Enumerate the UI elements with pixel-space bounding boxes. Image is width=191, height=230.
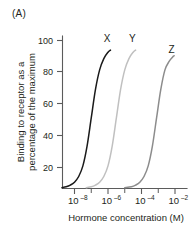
x-tick-exponent: –8 (81, 194, 89, 201)
x-tick-label-1e-4: 10 –4 (135, 194, 155, 207)
y-axis-title-line2: percentage of the maximum (26, 53, 37, 171)
x-tick-label-1e-6: 10 –6 (102, 194, 122, 207)
curve-label-y: Y (129, 33, 136, 44)
y-tick-label-80: 80 (43, 67, 53, 77)
x-tick-mantissa: 10 (68, 195, 79, 206)
x-tick-label-1e-2: 10 –2 (169, 194, 189, 207)
y-tick-label-60: 60 (43, 99, 53, 109)
curve-series-z (125, 56, 174, 188)
x-tick-exponent: –6 (114, 194, 122, 201)
x-tick-mantissa: 10 (102, 195, 113, 206)
y-axis-ticks (57, 41, 63, 168)
x-tick-mantissa: 10 (135, 195, 146, 206)
y-tick-label-20: 20 (43, 163, 53, 173)
y-axis-title-line1: Binding to receptor as a (15, 61, 26, 162)
x-tick-mantissa: 10 (169, 195, 180, 206)
figure-panel-a: (A) 100 80 60 40 20 (0, 0, 191, 230)
curve-label-z: Z (169, 44, 175, 55)
y-tick-label-40: 40 (43, 131, 53, 141)
x-axis-title: Hormone concentration (M) (68, 212, 184, 223)
x-tick-exponent: –4 (148, 194, 156, 201)
curve-series-x (62, 50, 111, 188)
x-tick-exponent: –2 (181, 194, 189, 201)
curve-series-y (86, 50, 135, 188)
y-tick-label-100: 100 (38, 36, 53, 46)
binding-curve-chart: 100 80 60 40 20 10 –8 10 –6 10 –4 (0, 0, 191, 230)
curve-label-x: X (104, 33, 111, 44)
x-tick-label-1e-8: 10 –8 (68, 194, 88, 207)
x-axis-minor-ticks (91, 189, 158, 194)
